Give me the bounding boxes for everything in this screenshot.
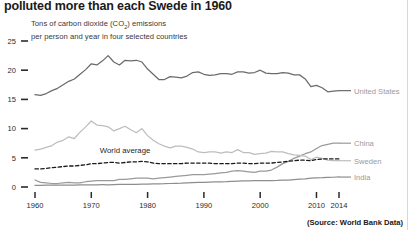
- y-axis-tick-label: 0: [12, 183, 16, 192]
- y-axis-tick-label: 10: [8, 124, 16, 133]
- series-line-sweden: [35, 121, 339, 161]
- series-label-china: China: [354, 139, 375, 148]
- annotation-world-average: World average: [100, 146, 151, 155]
- x-axis-tick-label: 1980: [139, 201, 156, 210]
- series-line-india: [35, 177, 339, 186]
- chart-figure: polluted more than each Swede in 1960 To…: [0, 0, 408, 230]
- x-axis-tick-label: 1990: [195, 201, 212, 210]
- series-label-india: India: [354, 173, 371, 182]
- y-axis-tick-label: 20: [8, 66, 16, 75]
- data-series-group: [35, 56, 339, 186]
- y-axis: 0510152025: [8, 37, 28, 192]
- x-axis-tick-label: 1960: [27, 201, 44, 210]
- y-axis-tick-label: 5: [12, 154, 16, 163]
- x-axis-tick-label: 2000: [252, 201, 269, 210]
- line-chart-plot: 0510152025 1960197019801990200020102014 …: [0, 0, 408, 230]
- source-note: (Source: World Bank Data): [307, 218, 403, 227]
- y-axis-tick-label: 15: [8, 95, 16, 104]
- series-label-united-states: United States: [354, 87, 400, 96]
- x-axis-tick-label: 2014: [331, 201, 348, 210]
- chart-annotations: World average: [100, 146, 151, 155]
- series-label-sweden: Sweden: [354, 157, 381, 166]
- series-line-world-average: [35, 159, 339, 169]
- x-axis-tick-label: 1970: [83, 201, 100, 210]
- x-axis: 1960197019801990200020102014: [27, 192, 348, 210]
- series-labels-group: United StatesChinaSwedenIndia: [339, 87, 400, 182]
- x-axis-tick-label: 2010: [308, 201, 325, 210]
- y-axis-tick-label: 25: [8, 37, 16, 46]
- series-line-united-states: [35, 56, 339, 96]
